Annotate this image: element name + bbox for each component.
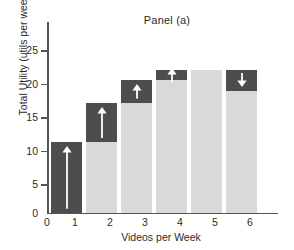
bar-highlight-segment [51,142,82,213]
bar-group-2 [86,22,117,213]
y-tick-label-10: 10 [16,146,38,156]
y-tick-label-20: 20 [16,79,38,89]
arrow-down-icon [237,73,247,87]
bar-base-segment [226,91,257,213]
y-tick-label-15: 15 [16,112,38,122]
bar-highlight-segment [156,70,187,80]
bar-highlight-segment [226,70,257,91]
y-tick-label-5: 5 [16,179,38,189]
x-tick-label-6: 6 [241,216,259,228]
x-tick-label-3: 3 [136,216,154,228]
bar-group-3 [121,22,152,213]
x-tick-label-4: 4 [171,216,189,228]
bar-group-1 [51,22,82,213]
bar-group-4 [156,22,187,213]
y-tick-label-25: 25 [16,45,38,55]
y-tick-label-0: 0 [16,208,38,218]
x-tick-label-0: 0 [38,216,56,228]
bar-group-5 [191,22,222,213]
arrow-up-icon [132,84,142,99]
bar-base-segment [121,103,152,213]
x-tick-label-5: 5 [206,216,224,228]
arrow-up-icon [62,146,72,209]
x-axis-label: Videos per Week [46,231,276,243]
bar-base-segment [86,142,117,213]
bar-highlight-segment [86,103,117,143]
x-tick-label-1: 1 [66,216,84,228]
chart-figure: Panel (a) Total Utility (utils per week)… [0,0,294,250]
bar-highlight-segment [121,80,152,103]
bar-base-segment [191,70,222,213]
bar-group-6 [226,22,257,213]
x-tick-label-2: 2 [101,216,119,228]
arrow-up-icon [167,68,177,82]
arrow-up-icon [97,107,107,139]
bar-base-segment [156,80,187,213]
bars-layer [47,22,278,213]
